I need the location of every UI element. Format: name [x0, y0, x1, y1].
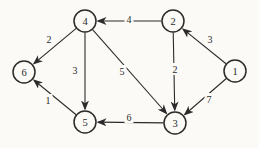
graph-edge-1-2 — [183, 29, 226, 64]
weighted-digraph: 432352761123456 — [0, 0, 259, 148]
graph-node-2: 2 — [162, 10, 184, 32]
edge-line — [34, 80, 76, 114]
edges-layer — [34, 21, 226, 123]
graph-node-5: 5 — [74, 111, 96, 133]
edge-line — [183, 29, 226, 64]
edge-weight-label: 2 — [47, 34, 52, 45]
edge-weight-label: 3 — [73, 65, 78, 76]
node-label: 4 — [82, 16, 88, 27]
node-label: 3 — [172, 118, 177, 129]
graph-edge-4-3 — [93, 30, 167, 114]
edge-weight-label: 3 — [208, 34, 213, 45]
edge-weight-label: 5 — [120, 66, 125, 77]
graph-figure: 432352761123456 — [0, 0, 259, 148]
edge-weight-label: 4 — [127, 14, 132, 25]
graph-node-6: 6 — [13, 61, 35, 83]
node-label: 1 — [232, 66, 237, 77]
node-label: 2 — [170, 16, 175, 27]
edge-weight-label: 2 — [173, 64, 178, 75]
graph-edge-5-6 — [34, 80, 76, 114]
graph-node-4: 4 — [74, 10, 96, 32]
node-label: 6 — [21, 67, 26, 78]
edge-weight-label: 6 — [127, 112, 132, 123]
edge-weights-layer: 432352761 — [44, 13, 215, 123]
node-label: 5 — [82, 117, 87, 128]
edge-line — [34, 28, 76, 63]
edge-line — [93, 30, 167, 114]
graph-node-1: 1 — [224, 60, 246, 82]
graph-edge-4-6 — [34, 28, 76, 63]
graph-node-3: 3 — [164, 112, 186, 134]
edge-weight-label: 7 — [207, 94, 212, 105]
edge-weight-label: 1 — [46, 95, 51, 106]
